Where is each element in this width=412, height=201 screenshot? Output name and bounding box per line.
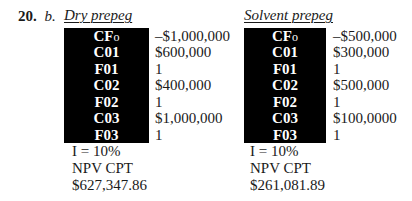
solvent-prepeg-values: –$500,000 $300,000 1 $500,000 1 $100,000… xyxy=(333,28,397,143)
value-c01: $300,000 xyxy=(333,44,397,60)
problem-part: b. xyxy=(45,8,56,24)
value-cf0: –$1,000,000 xyxy=(155,28,230,44)
key-f03: F03 xyxy=(64,127,149,143)
value-cf0: –$500,000 xyxy=(333,28,397,44)
key-cf0: CFo xyxy=(244,28,326,44)
problem-label: 20. b. xyxy=(18,8,56,24)
value-f02: 1 xyxy=(155,94,230,110)
key-c01: C01 xyxy=(244,44,326,60)
dry-prepeg-summary: I = 10% NPV CPT $627,347.86 xyxy=(72,143,147,194)
value-c02: $500,000 xyxy=(333,77,397,93)
npv-label: NPV CPT xyxy=(72,160,147,177)
key-f02: F02 xyxy=(64,94,149,110)
solvent-prepeg-title: Solvent prepeg xyxy=(244,7,333,24)
npv-value: $627,347.86 xyxy=(72,177,147,194)
problem-number: 20. xyxy=(18,8,37,24)
value-c03: $100,0000 xyxy=(333,110,397,126)
key-c03: C03 xyxy=(64,110,149,126)
key-f01: F01 xyxy=(244,61,326,77)
interest-rate: I = 10% xyxy=(250,143,325,160)
key-f02: F02 xyxy=(244,94,326,110)
key-f01: F01 xyxy=(64,61,149,77)
value-f02: 1 xyxy=(333,94,397,110)
value-f01: 1 xyxy=(155,61,230,77)
value-c01: $600,000 xyxy=(155,44,230,60)
dry-prepeg-title: Dry prepeg xyxy=(64,7,132,24)
value-c03: $1,000,000 xyxy=(155,110,230,126)
value-f03: 1 xyxy=(155,127,230,143)
dry-prepeg-calculator-keys: CFo C01 F01 C02 F02 C03 F03 xyxy=(64,28,149,143)
interest-rate: I = 10% xyxy=(72,143,147,160)
key-c01: C01 xyxy=(64,44,149,60)
dry-prepeg-values: –$1,000,000 $600,000 1 $400,000 1 $1,000… xyxy=(155,28,230,143)
key-c02: C02 xyxy=(64,77,149,93)
solvent-prepeg-summary: I = 10% NPV CPT $261,081.89 xyxy=(250,143,325,194)
value-c02: $400,000 xyxy=(155,77,230,93)
key-c02: C02 xyxy=(244,77,326,93)
key-f03: F03 xyxy=(244,127,326,143)
key-cf0: CFo xyxy=(64,28,149,44)
value-f01: 1 xyxy=(333,61,397,77)
npv-value: $261,081.89 xyxy=(250,177,325,194)
value-f03: 1 xyxy=(333,127,397,143)
key-c03: C03 xyxy=(244,110,326,126)
solvent-prepeg-calculator-keys: CFo C01 F01 C02 F02 C03 F03 xyxy=(244,28,326,143)
npv-label: NPV CPT xyxy=(250,160,325,177)
